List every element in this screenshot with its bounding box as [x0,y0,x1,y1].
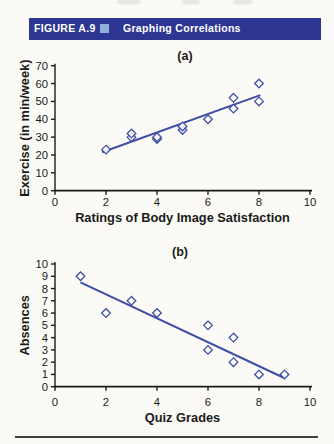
svg-text:3: 3 [42,344,48,356]
svg-text:Quiz Grades: Quiz Grades [145,410,220,425]
page-crop-artifact [117,0,141,4]
figure-title: Graphing Correlations [123,22,241,34]
svg-text:4: 4 [154,196,160,208]
svg-text:6: 6 [205,196,211,208]
svg-text:0: 0 [42,381,48,393]
svg-text:0: 0 [52,396,58,408]
svg-text:60: 60 [35,78,48,90]
scatter-chart-a: (a)0246810010203040506070Ratings of Body… [0,44,334,236]
figure-header: FIGURE A.9 Graphing Correlations [29,18,321,40]
page-crop-artifact [233,0,253,4]
svg-text:10: 10 [304,396,317,408]
scatter-chart-b: (b)0246810012345678910Quiz GradesAbsence… [0,237,334,433]
svg-text:6: 6 [42,307,48,319]
figure-number: FIGURE A.9 [34,22,96,34]
svg-text:0: 0 [42,185,48,197]
svg-text:4: 4 [42,332,48,344]
svg-text:4: 4 [154,396,160,408]
svg-text:Ratings of Body Image Satisfac: Ratings of Body Image Satisfaction [75,210,290,225]
svg-text:5: 5 [42,319,48,331]
svg-text:2: 2 [103,196,109,208]
svg-text:50: 50 [35,95,48,107]
page-crop-artifact [182,0,200,4]
svg-text:40: 40 [35,113,48,125]
textbook-figure-page: FIGURE A.9 Graphing Correlations (a)0246… [0,0,334,444]
svg-text:10: 10 [35,167,48,179]
svg-text:8: 8 [256,396,262,408]
svg-text:6: 6 [205,396,211,408]
header-square-icon [100,24,109,33]
svg-text:10: 10 [35,258,48,270]
svg-text:9: 9 [42,270,48,282]
svg-text:20: 20 [35,149,48,161]
svg-text:(a): (a) [177,49,192,63]
svg-text:1: 1 [42,368,48,380]
svg-text:8: 8 [256,196,262,208]
svg-text:Absences: Absences [17,295,32,355]
svg-text:7: 7 [42,295,48,307]
svg-text:10: 10 [304,196,317,208]
svg-text:8: 8 [42,283,48,295]
svg-text:Exercise (in min/week): Exercise (in min/week) [17,60,32,197]
figure-bottom-rule [15,436,318,438]
svg-text:2: 2 [103,396,109,408]
svg-text:(b): (b) [172,245,188,259]
svg-text:30: 30 [35,131,48,143]
svg-text:0: 0 [52,196,58,208]
svg-text:70: 70 [35,60,48,72]
svg-text:2: 2 [42,356,48,368]
